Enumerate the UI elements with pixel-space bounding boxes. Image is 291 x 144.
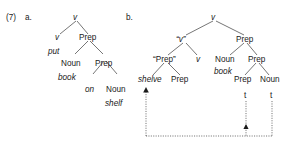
tree-a-terminal-book: book [58,74,76,82]
tree-b-node-prep-under-shelve: Prep [171,76,188,84]
tree-a-node-root-v: v [73,14,77,22]
tree-b-terminal-book: book [214,68,232,76]
tree-a-node-prep-on: on [85,86,94,94]
tree-b-node-prep-trace: Prep [234,76,251,84]
tree-a-node-noun-2: Noun [106,86,126,94]
subfigure-label-b: b. [126,14,133,22]
tree-a-terminal-put: put [48,48,59,56]
tree-a-terminal-shelf: shelf [105,100,122,108]
tree-b-trace-prep: t [244,92,246,100]
tree-b-node-noun-book: Noun [215,56,235,64]
tree-a-node-v-left: v [55,34,59,42]
tree-a-node-noun-1: Noun [61,60,81,68]
tree-b-node-v-bare: v [196,56,200,64]
example-number: (7) [6,14,16,22]
syntax-tree-figure: (7) a. b. v v Prep put Noun Prep book on… [0,0,291,144]
tree-b-node-prep-quoted: “Prep” [153,56,176,64]
tree-a-node-prep-2: Prep [95,60,112,68]
tree-b-node-prep-inner: Prep [248,56,265,64]
tree-b-terminal-shelve: shelve [138,76,162,84]
tree-b-node-root-v: v [211,14,215,22]
tree-b-trace-noun: t [270,92,272,100]
tree-b-node-prep-right: Prep [236,36,253,44]
tree-b-node-noun-trace: Noun [260,76,280,84]
tree-a-node-prep-1: Prep [79,34,96,42]
subfigure-label-a: a. [25,14,32,22]
tree-branch-lines [0,0,291,144]
tree-b-node-v-quoted: “v” [176,36,186,44]
